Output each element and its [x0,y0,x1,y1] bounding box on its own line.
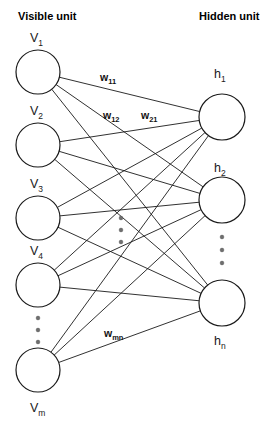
visible-ellipsis-dot [36,340,40,344]
connection-v4-h2 [58,210,201,276]
connection-v4-h1 [54,133,205,271]
visible-unit-header: Visible unit [18,10,77,22]
visible-node-vm[interactable] [16,348,60,392]
hidden-ellipsis-dot [220,248,224,252]
weight-labels-layer: w11w12w21wmn [99,71,158,342]
connection-vm-h2 [54,216,205,355]
connection-v1-h1 [59,77,199,111]
visible-label-vm: Vm [30,401,45,418]
hidden-label-hn: hn [214,334,226,351]
weight-label-wmn: wmn [103,327,124,342]
visible-ellipsis-dot [36,316,40,320]
connection-v3-h2 [60,202,199,216]
edges-layer [51,77,209,362]
visible-ellipsis-dot [36,328,40,332]
center-ellipsis-dot [119,216,123,220]
network-canvas: Visible unit Hidden unit V1V2V3V4Vmh1h2h… [0,0,269,426]
hidden-ellipsis-dot [220,235,224,239]
hidden-label-h1: h1 [214,67,226,84]
weight-label-w21: w21 [140,109,158,124]
visible-node-v2[interactable] [16,123,60,167]
hidden-node-hn[interactable] [199,280,245,326]
connection-v2-hn [55,159,205,288]
weight-label-w12: w12 [102,109,120,124]
rbm-diagram: Visible unit Hidden unit V1V2V3V4Vmh1h2h… [0,0,269,426]
hidden-ellipsis-dot [220,261,224,265]
visible-node-v4[interactable] [16,263,60,307]
connection-v1-h2 [56,85,203,187]
visible-node-v3[interactable] [16,196,60,240]
visible-label-v2: V2 [30,104,43,121]
visible-node-v1[interactable] [16,50,60,94]
weight-label-w11: w11 [99,71,116,86]
connection-vm-hn [59,311,201,363]
hidden-label-h2: h2 [214,161,226,178]
hidden-unit-header: Hidden unit [199,10,260,22]
hidden-node-h2[interactable] [199,177,245,223]
center-ellipsis-dot [119,228,123,232]
connection-v2-h1 [60,120,200,141]
visible-label-v1: V1 [30,31,43,48]
visible-label-v4: V4 [30,244,43,261]
connection-v3-h1 [57,128,202,207]
center-ellipsis-dot [119,240,123,244]
hidden-node-h1[interactable] [199,94,245,140]
connection-v3-hn [58,227,201,293]
visible-label-v3: V3 [30,177,43,194]
connection-v1-hn [52,89,208,285]
connection-v4-hn [60,287,199,301]
